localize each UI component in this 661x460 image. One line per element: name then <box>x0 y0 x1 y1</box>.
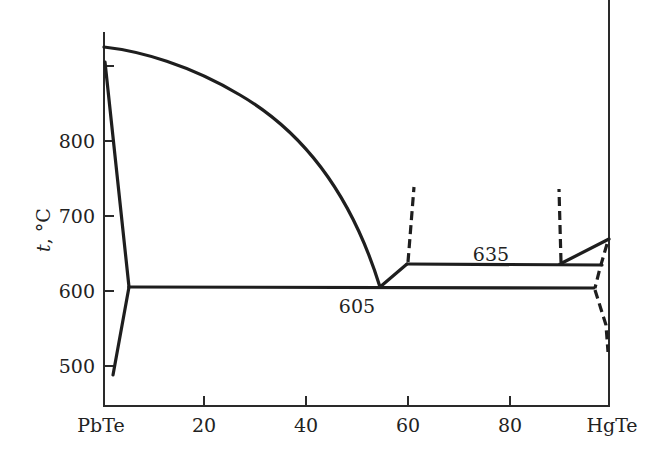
y-tick-label-600: 600 <box>59 280 95 302</box>
x-tick-label-40: 40 <box>294 414 318 436</box>
x-tick-label-80: 80 <box>498 414 522 436</box>
x-tick-label-20: 20 <box>192 414 216 436</box>
axes <box>103 0 610 407</box>
x-label-pbte: PbTe <box>77 414 124 436</box>
annotation-635: 635 <box>473 243 509 265</box>
y-axis-title-unit: , °C <box>32 208 54 244</box>
y-tick-label-700: 700 <box>59 205 95 227</box>
x-label-hgte: HgTe <box>586 414 637 436</box>
phase-diagram: 800 700 600 500 PbTe 20 40 60 80 HgTe t,… <box>0 0 661 460</box>
hgte-solvus-dashed <box>595 290 608 352</box>
solidus-pbte <box>105 62 129 287</box>
phase-lines <box>104 47 609 375</box>
y-tick-label-500: 500 <box>59 355 95 377</box>
dashed-boundaries <box>408 187 608 352</box>
annotation-605: 605 <box>339 295 375 317</box>
liquidus-curve-pbte <box>104 47 380 287</box>
y-axis-title: t, °C <box>32 208 54 252</box>
boundary-60-dashed <box>408 187 414 262</box>
boundary-90-dashed <box>559 189 561 262</box>
y-tick-label-800: 800 <box>59 130 95 152</box>
liquidus-mid-segment <box>380 264 407 287</box>
x-tick-label-60: 60 <box>396 414 420 436</box>
solvus-pbte <box>113 287 129 375</box>
eutectic-line-605 <box>129 287 594 288</box>
